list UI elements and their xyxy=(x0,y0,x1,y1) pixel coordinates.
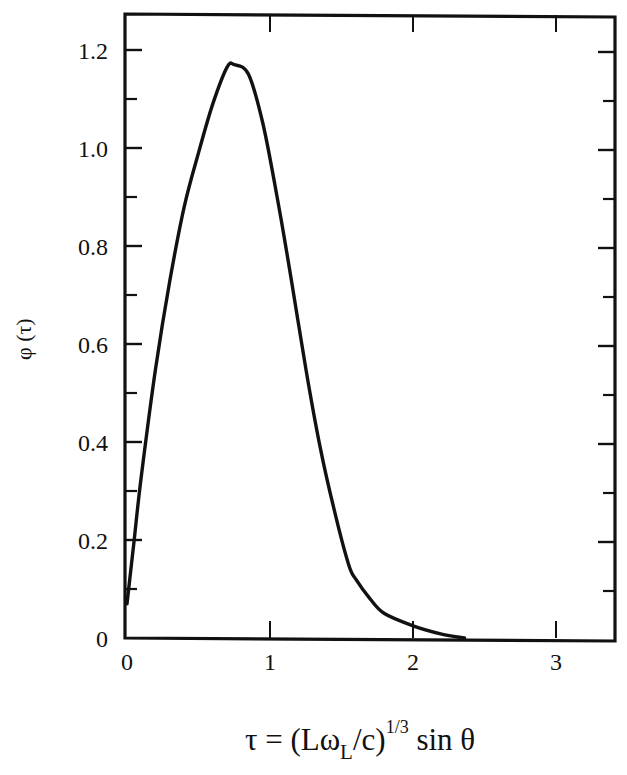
y-tick-label: 1.0 xyxy=(78,136,108,162)
x-axis-label-subscript: L xyxy=(340,740,353,764)
y-tick-label: 1.2 xyxy=(78,38,108,64)
tick-labels: 00.20.40.60.81.01.20123 xyxy=(78,38,562,675)
x-axis-label-mid: /c) xyxy=(353,722,386,757)
x-axis-label-superscript: 1/3 xyxy=(386,717,409,737)
x-axis-label-prefix: τ = (Lω xyxy=(245,722,340,757)
axis-ticks xyxy=(125,15,615,638)
x-axis-label-suffix: sin θ xyxy=(416,722,475,757)
y-tick-label: 0.2 xyxy=(78,528,108,554)
x-tick-label: 3 xyxy=(550,649,562,675)
data-series xyxy=(127,63,465,638)
plot-area: 00.20.40.60.81.01.20123 xyxy=(0,0,627,775)
y-tick-label: 0.4 xyxy=(78,430,108,456)
x-tick-label: 2 xyxy=(407,649,419,675)
chart: 00.20.40.60.81.01.20123 φ (τ) τ = (LωL/c… xyxy=(0,0,627,775)
axes-frame xyxy=(125,14,615,641)
y-tick-label: 0.6 xyxy=(78,332,108,358)
x-axis-label: τ = (LωL/c)1/3 sin θ xyxy=(245,718,475,763)
y-axis-label: φ (τ) xyxy=(4,320,44,360)
y-tick-label: 0.8 xyxy=(78,234,108,260)
x-tick-label: 1 xyxy=(264,649,276,675)
y-tick-label: 0 xyxy=(96,626,108,652)
x-tick-label: 0 xyxy=(121,649,133,675)
plot-frame xyxy=(125,14,615,641)
phi-curve xyxy=(127,63,465,638)
